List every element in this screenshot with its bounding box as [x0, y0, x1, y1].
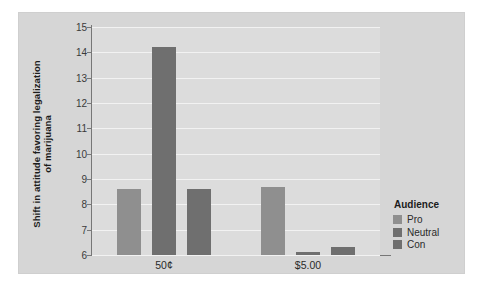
y-tick-label: 15	[65, 22, 87, 33]
chart-figure: Shift in attitude favoring legalization …	[18, 12, 465, 274]
legend-item-con[interactable]: Con	[393, 239, 463, 250]
y-tick-label: 14	[65, 47, 87, 58]
y-tick-label: 8	[65, 199, 87, 210]
bar-pro-1	[261, 187, 285, 255]
gridline	[92, 255, 380, 256]
legend-items: ProNeutralCon	[393, 214, 463, 250]
y-tick-label: 6	[65, 250, 87, 261]
gridline	[92, 128, 380, 129]
gridline	[92, 78, 380, 79]
x-axis-tick-labels: 50¢$5.00	[92, 259, 380, 277]
legend: Audience ProNeutralCon	[393, 199, 463, 252]
gridline	[92, 154, 380, 155]
y-axis-title-line-2: of marijuana	[42, 115, 53, 173]
y-tick-label: 10	[65, 148, 87, 159]
y-axis-title-container: Shift in attitude favoring legalization …	[27, 13, 57, 275]
y-tick-label: 11	[65, 123, 87, 134]
y-axis-tick-labels: 6789101112131415	[63, 27, 87, 255]
legend-label: Con	[407, 239, 425, 250]
legend-label: Pro	[407, 214, 423, 225]
y-tick-label: 9	[65, 174, 87, 185]
legend-swatch-icon	[393, 240, 402, 249]
legend-title: Audience	[393, 199, 463, 210]
legend-swatch-icon	[393, 215, 402, 224]
plot-area	[92, 27, 380, 255]
bar-pro-0	[117, 189, 141, 255]
gridline	[92, 27, 380, 28]
y-tick-label: 13	[65, 72, 87, 83]
legend-label: Neutral	[407, 227, 439, 238]
plot-inner	[92, 27, 380, 255]
gridline	[92, 179, 380, 180]
y-axis-title: Shift in attitude favoring legalization …	[31, 60, 53, 228]
x-tick-label: $5.00	[295, 259, 321, 271]
y-axis-title-line-1: Shift in attitude favoring legalization	[31, 60, 42, 228]
bar-con-0	[187, 189, 211, 255]
legend-item-pro[interactable]: Pro	[393, 214, 463, 225]
y-tick-label: 7	[65, 224, 87, 235]
legend-item-neutral[interactable]: Neutral	[393, 227, 463, 238]
bar-neutral-1	[296, 252, 320, 255]
legend-swatch-icon	[393, 228, 402, 237]
gridline	[92, 52, 380, 53]
bar-con-1	[331, 247, 355, 255]
gridline	[92, 103, 380, 104]
x-tick-label: 50¢	[155, 259, 173, 271]
bar-neutral-0	[152, 47, 176, 255]
y-tick-label: 12	[65, 98, 87, 109]
